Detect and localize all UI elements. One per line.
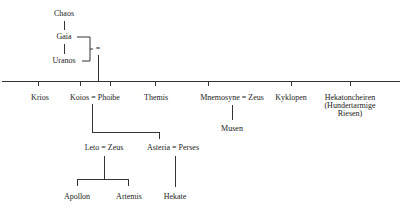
node-themis: Themis	[144, 93, 168, 102]
marriage-sign: =	[96, 44, 101, 53]
node-krios: Krios	[31, 93, 49, 102]
node-artemis: Artemis	[116, 192, 142, 201]
node-apollon: Apollon	[64, 192, 90, 201]
node-hekatoncheiren-note: Riesen)	[338, 109, 362, 118]
node-chaos: Chaos	[54, 9, 74, 18]
node-asteria-perses: Asteria = Perses	[147, 143, 199, 152]
node-kyklopen: Kyklopen	[275, 93, 307, 102]
node-uranos: Uranos	[52, 56, 75, 65]
node-koios-phoibe: Koios = Phoibe	[70, 93, 120, 102]
node-hekate: Hekate	[164, 192, 187, 201]
node-gaia: Gaia	[56, 32, 71, 41]
node-mnemosyne-zeus: Mnemosyne = Zeus	[200, 93, 264, 102]
node-leto-zeus: Leto = Zeus	[85, 143, 124, 152]
node-musen: Musen	[221, 124, 243, 133]
